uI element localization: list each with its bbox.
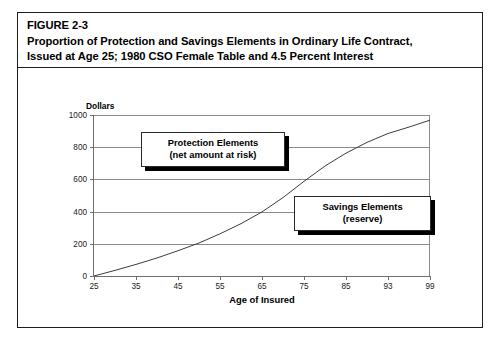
chart-body: Dollars 02004006008001000 25354555657585… [18,68,482,327]
callout-protection-elements: Protection Elements (net amount at risk) [141,132,285,167]
x-tick-label-35: 35 [131,282,140,291]
x-tick-label-55: 55 [215,282,224,291]
y-tick-label-1000: 1000 [69,111,87,120]
x-tick-mark-93 [388,276,389,280]
y-tick-label-400: 400 [73,207,87,216]
y-tick-label-0: 0 [82,272,87,281]
x-axis-label: Age of Insured [94,294,430,305]
figure-title-line-2: Issued at Age 25; 1980 CSO Female Table … [27,49,474,65]
x-tick-mark-35 [136,276,137,280]
y-tick-label-200: 200 [73,239,87,248]
y-tick-label-800: 800 [73,143,87,152]
figure-frame: FIGURE 2-3 Proportion of Protection and … [17,12,483,328]
x-tick-mark-45 [178,276,179,280]
x-tick-mark-85 [346,276,347,280]
x-tick-label-85: 85 [341,282,350,291]
callout-savings-line-1: Savings Elements [304,201,421,213]
x-tick-label-93: 93 [383,282,392,291]
figure-header: FIGURE 2-3 Proportion of Protection and … [18,13,482,68]
callout-protection-line-1: Protection Elements [151,137,275,149]
callout-savings-elements: Savings Elements (reserve) [294,196,431,231]
callout-protection-line-2: (net amount at risk) [151,149,275,161]
x-tick-mark-25 [94,276,95,280]
x-tick-label-25: 25 [89,282,98,291]
x-tick-label-65: 65 [257,282,266,291]
x-tick-mark-65 [262,276,263,280]
y-tick-label-600: 600 [73,175,87,184]
plot-area: 02004006008001000 253545556575859399 Pro… [94,115,430,276]
x-tick-label-99: 99 [425,282,434,291]
y-axis-label: Dollars [86,101,114,111]
x-tick-mark-55 [220,276,221,280]
x-tick-label-45: 45 [173,282,182,291]
callout-savings-line-2: (reserve) [304,213,421,225]
x-tick-label-75: 75 [299,282,308,291]
figure-number: FIGURE 2-3 [27,18,474,34]
x-tick-mark-75 [304,276,305,280]
figure-title-line-1: Proportion of Protection and Savings Ele… [27,34,474,50]
x-tick-mark-99 [430,276,431,280]
